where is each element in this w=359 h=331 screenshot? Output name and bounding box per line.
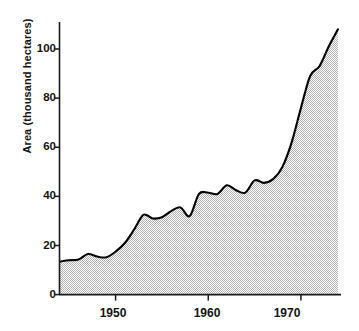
x-tick-marks bbox=[116, 295, 301, 301]
chart-figure: Area (thousand hectares) 100 80 60 40 20… bbox=[0, 0, 359, 331]
chart-plot-area bbox=[0, 0, 359, 331]
area-series-fill bbox=[60, 29, 338, 294]
